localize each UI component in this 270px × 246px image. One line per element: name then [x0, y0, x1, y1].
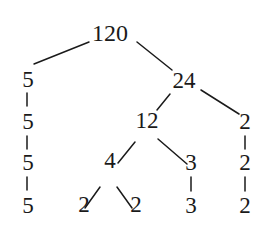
tree-node-n5c: 5 [22, 150, 34, 175]
tree-edge-n12-n3a [158, 139, 187, 164]
tree-edge-n24-n12 [157, 94, 170, 110]
tree-node-n5a: 5 [22, 67, 34, 92]
tree-node-n3a: 3 [185, 150, 197, 175]
tree-node-n2e: 2 [239, 193, 251, 218]
tree-node-n24: 24 [173, 68, 197, 93]
tree-edge-n12-n4 [118, 142, 135, 163]
tree-node-n2a: 2 [239, 109, 251, 134]
factor-tree-svg: 1205245122543252232 [0, 0, 270, 246]
tree-node-n5b: 5 [22, 109, 34, 134]
tree-node-n3b: 3 [185, 193, 197, 218]
tree-node-n5d: 5 [22, 193, 34, 218]
tree-edge-n120-n5a [34, 42, 89, 64]
tree-node-n120: 120 [92, 20, 128, 46]
tree-edge-n120-n24 [137, 42, 172, 70]
tree-node-n2d: 2 [130, 192, 142, 217]
factor-tree-diagram: 1205245122543252232 [0, 0, 270, 246]
tree-nodes: 1205245122543252232 [22, 20, 251, 218]
tree-node-n12: 12 [136, 108, 159, 133]
tree-edge-n24-n2a [201, 90, 239, 114]
tree-node-n2c: 2 [78, 192, 90, 217]
tree-node-n4: 4 [104, 148, 116, 173]
tree-node-n2b: 2 [239, 150, 251, 175]
